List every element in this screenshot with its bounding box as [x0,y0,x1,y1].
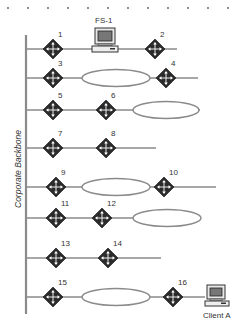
network-rows: 12345678910111213141516 [26,30,216,307]
router-number-label: 5 [58,91,63,100]
router-number-label: 13 [61,239,70,248]
network-cloud-ellipse [133,210,201,227]
router-number-label: 1 [58,30,63,39]
grid-dot [147,7,149,9]
router-icon [145,39,165,59]
router-icon [43,68,63,88]
network-row: 910 [26,168,216,197]
network-row: 1516 [26,278,205,307]
router-number-label: 11 [61,199,70,208]
router-icon [46,177,66,197]
router-icon [96,100,116,120]
router-icon [163,287,183,307]
network-cloud-ellipse [82,179,150,196]
router-icon [98,248,118,268]
grid-dot [187,7,189,9]
network-row: 1112 [26,199,201,228]
client-a-computer [205,285,229,306]
router-number-label: 14 [113,239,122,248]
router-icon [43,287,63,307]
network-cloud-ellipse [82,289,150,306]
grid-dot [107,7,109,9]
router-icon [43,138,63,158]
network-cloud-ellipse [82,70,150,87]
router-number-label: 15 [58,278,67,287]
router-number-label: 7 [58,129,63,138]
grid-dots [7,7,229,9]
router-icon [46,248,66,268]
network-row: 1314 [26,239,161,268]
router-icon [92,208,112,228]
router-icon [154,177,174,197]
grid-dot [47,7,49,9]
network-row: 34 [26,59,198,88]
router-icon [96,138,116,158]
router-icon [46,208,66,228]
server-label: FS-1 [95,16,113,25]
network-row: 78 [26,129,156,158]
grid-dot [167,7,169,9]
router-number-label: 12 [107,199,116,208]
router-number-label: 10 [169,168,178,177]
grid-dot [87,7,89,9]
grid-dot [67,7,69,9]
network-row: 56 [26,91,200,120]
backbone-label: Corporate Backbone [13,130,23,208]
client-label: Client A [203,311,231,320]
router-icon [43,100,63,120]
grid-dot [207,7,209,9]
router-number-label: 16 [178,278,187,287]
router-number-label: 4 [171,59,176,68]
router-number-label: 6 [111,91,116,100]
router-icon [156,68,176,88]
router-number-label: 8 [111,129,116,138]
router-number-label: 2 [160,30,165,39]
router-number-label: 9 [61,168,66,177]
file-server-fs1 [92,28,118,52]
router-icon [43,39,63,59]
grid-dot [127,7,129,9]
grid-dot [7,7,9,9]
grid-dot [227,7,229,9]
network-cloud-ellipse [133,102,199,119]
router-number-label: 3 [58,59,63,68]
grid-dot [27,7,29,9]
network-diagram: Corporate Backbone 123456789101112131415… [0,0,247,327]
